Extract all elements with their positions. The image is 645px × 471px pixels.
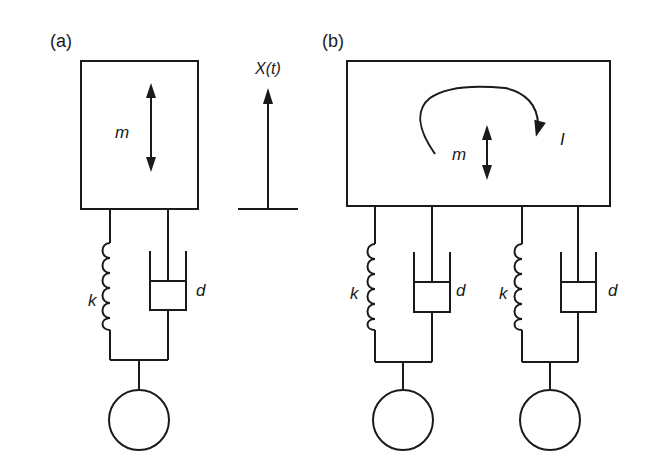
spring-label-b-left: k <box>350 284 360 303</box>
damper-label-a: d <box>196 281 206 300</box>
rotation-arrow-icon <box>420 87 546 154</box>
spring-icon <box>368 206 376 362</box>
mass-block-a <box>81 61 198 209</box>
suspension-b-right: k d <box>499 206 618 450</box>
panel-b-label: (b) <box>322 31 344 51</box>
vertical-motion-arrow-icon <box>482 125 492 180</box>
wheel-icon <box>373 390 433 450</box>
damper-label-b-right: d <box>608 281 618 300</box>
panel-b: (b) m I k d <box>322 31 618 450</box>
panel-a-label: (a) <box>50 31 72 51</box>
suspension-b-left: k d <box>350 206 466 450</box>
wheel-icon <box>520 390 580 450</box>
damper-icon <box>414 206 450 362</box>
damper-icon <box>150 209 186 360</box>
spring-label-a: k <box>88 291 98 310</box>
vehicle-suspension-diagram: (a) m X(t) k <box>0 0 645 471</box>
damper-label-b-left: d <box>456 281 466 300</box>
damper-icon <box>561 206 596 362</box>
mass-label-a: m <box>115 123 129 142</box>
mass-label-b: m <box>452 145 466 164</box>
mass-block-b <box>347 61 610 206</box>
vertical-motion-arrow-icon <box>146 83 156 172</box>
inertia-label: I <box>560 130 565 149</box>
excitation-label: X(t) <box>254 60 281 77</box>
spring-icon <box>515 206 523 362</box>
panel-a: (a) m X(t) k <box>50 31 298 450</box>
spring-label-b-right: k <box>499 284 509 303</box>
suspension-a: k d <box>88 209 206 450</box>
spring-icon <box>103 209 111 360</box>
excitation-arrow-icon <box>238 88 298 209</box>
wheel-icon <box>109 390 169 450</box>
